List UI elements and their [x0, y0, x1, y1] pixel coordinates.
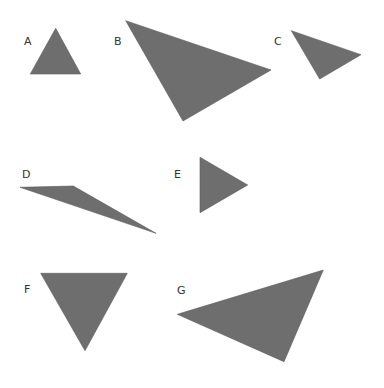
label-a: A — [24, 35, 32, 48]
triangle-a-group: A — [24, 28, 81, 74]
triangle-c — [291, 31, 361, 79]
triangle-g — [177, 270, 323, 362]
label-c: C — [274, 35, 282, 48]
triangle-d — [20, 186, 156, 233]
label-e: E — [174, 168, 181, 181]
label-b: B — [114, 35, 122, 48]
label-f: F — [24, 283, 30, 296]
triangle-a — [30, 28, 80, 74]
triangle-f — [41, 273, 128, 350]
triangle-b — [126, 21, 271, 121]
label-d: D — [22, 168, 30, 181]
triangle-d-group: D — [20, 168, 156, 233]
triangle-g-group: G — [177, 270, 323, 362]
triangle-b-group: B — [114, 21, 271, 121]
triangle-e — [200, 157, 248, 212]
label-g: G — [177, 284, 186, 297]
triangle-e-group: E — [174, 157, 248, 212]
triangle-f-group: F — [24, 273, 127, 350]
triangle-c-group: C — [274, 31, 361, 79]
triangles-diagram: A B C D E F G — [0, 0, 384, 388]
